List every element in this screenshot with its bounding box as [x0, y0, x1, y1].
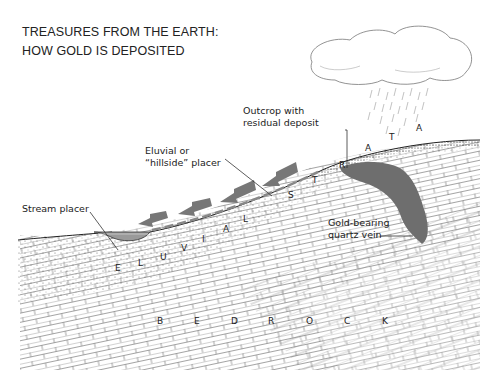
bedrock-letter: D: [231, 316, 238, 326]
eluvial-letter: I: [202, 234, 205, 244]
strata-letter: T: [312, 175, 318, 185]
strata-letter: A: [365, 143, 371, 153]
outcrop-label: Outcrop with residual deposit: [243, 105, 319, 129]
strata-letter: R: [339, 160, 345, 170]
cloud-icon: [311, 26, 472, 84]
strata-letter: T: [389, 132, 395, 142]
strata-letter: A: [416, 123, 422, 133]
eluvial-placer-label: Eluvial or “hillside” placer: [145, 145, 221, 169]
outcrop-label-line-1: Outcrop with: [243, 105, 319, 117]
vein-label-line-2: quartz vein: [328, 229, 390, 241]
bedrock-letter: C: [344, 316, 350, 326]
quartz-vein-label: Gold-bearing quartz vein: [328, 217, 390, 241]
stream-placer-label: Stream placer: [22, 203, 89, 215]
title-line-2: HOW GOLD IS DEPOSITED: [22, 42, 219, 61]
title-line-1: TREASURES FROM THE EARTH:: [22, 23, 219, 42]
bedrock-letter: K: [382, 316, 388, 326]
strata-letter: S: [288, 190, 294, 200]
eluvial-letter: U: [160, 252, 167, 262]
bedrock-letter: B: [157, 316, 163, 326]
bedrock-letter: E: [194, 316, 200, 326]
diagram-title: TREASURES FROM THE EARTH: HOW GOLD IS DE…: [22, 23, 219, 61]
eluvial-letter: A: [223, 224, 229, 234]
eluvial-letter: V: [181, 243, 187, 253]
eluvial-letter: L: [138, 258, 143, 268]
bedrock-letter: O: [306, 316, 313, 326]
vein-label-line-1: Gold-bearing: [328, 217, 390, 229]
bedrock-letter: R: [268, 316, 274, 326]
eluvial-label-line-2: “hillside” placer: [145, 157, 221, 169]
eluvial-letter: L: [243, 214, 248, 224]
eluvial-label-line-1: Eluvial or: [145, 145, 221, 157]
eluvial-letter: E: [115, 263, 121, 273]
outcrop-label-line-2: residual deposit: [243, 117, 319, 129]
